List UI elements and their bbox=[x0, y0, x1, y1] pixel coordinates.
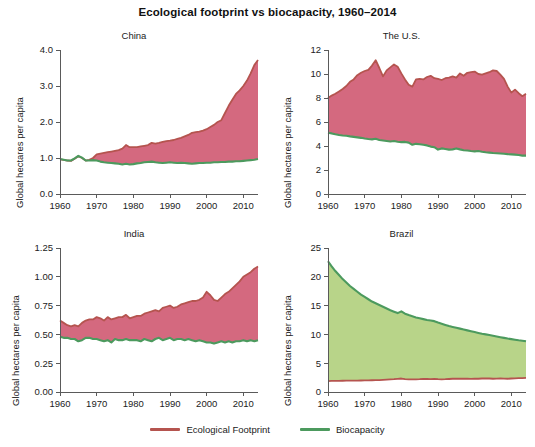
x-tick-label-brazil-3: 1990 bbox=[427, 398, 448, 409]
panel-title-brazil: Brazil bbox=[268, 228, 535, 239]
plot-svg-india: 0.000.250.500.751.001.251960197019801990… bbox=[24, 240, 264, 418]
x-tick-label-china-5: 2010 bbox=[233, 200, 254, 211]
panel-title-india: India bbox=[0, 228, 268, 239]
chart-title: Ecological footprint vs biocapacity, 196… bbox=[0, 6, 535, 18]
x-tick-label-india-3: 1990 bbox=[159, 398, 180, 409]
figure-root: Ecological footprint vs biocapacity, 196… bbox=[0, 0, 535, 447]
plot-area-india: 0.000.250.500.751.001.251960197019801990… bbox=[24, 240, 264, 418]
y-tick-label-china-2: 2.0 bbox=[40, 116, 53, 127]
x-tick-label-china-0: 1960 bbox=[49, 200, 70, 211]
legend-label-biocapacity: Biocapacity bbox=[336, 424, 385, 435]
x-tick-label-india-4: 2000 bbox=[196, 398, 217, 409]
y-tick-label-china-3: 3.0 bbox=[40, 80, 53, 91]
x-tick-label-india-1: 1970 bbox=[86, 398, 107, 409]
y-tick-label-brazil-4: 20 bbox=[310, 271, 321, 282]
plot-svg-china: 0.01.02.03.04.0196019701980199020002010 bbox=[24, 42, 264, 220]
panel-title-china: China bbox=[0, 30, 268, 41]
legend-item-biocapacity: Biocapacity bbox=[300, 424, 385, 435]
y-axis-label-india: Global hectares per capita bbox=[10, 295, 21, 406]
y-tick-label-brazil-5: 25 bbox=[310, 242, 321, 253]
y-tick-label-china-4: 4.0 bbox=[40, 44, 53, 55]
legend-label-ecological-footprint: Ecological Footprint bbox=[186, 424, 269, 435]
legend-swatch-ecological-footprint bbox=[150, 428, 180, 431]
x-tick-label-us-3: 1990 bbox=[427, 200, 448, 211]
plot-area-china: 0.01.02.03.04.0196019701980199020002010 bbox=[24, 42, 264, 220]
y-tick-label-brazil-0: 0 bbox=[316, 386, 321, 397]
y-tick-label-india-3: 0.75 bbox=[35, 300, 54, 311]
x-tick-label-india-5: 2010 bbox=[233, 398, 254, 409]
x-tick-label-us-2: 1980 bbox=[391, 200, 412, 211]
panel-title-us: The U.S. bbox=[268, 30, 535, 41]
x-tick-label-brazil-0: 1960 bbox=[317, 398, 338, 409]
area-fill-brazil bbox=[328, 261, 526, 381]
x-tick-label-us-4: 2000 bbox=[464, 200, 485, 211]
plot-area-us: 024681012196019701980199020002010 bbox=[292, 42, 532, 220]
plot-svg-brazil: 0510152025196019701980199020002010 bbox=[292, 240, 532, 418]
x-tick-label-china-1: 1970 bbox=[86, 200, 107, 211]
x-tick-label-india-0: 1960 bbox=[49, 398, 70, 409]
y-tick-label-brazil-1: 5 bbox=[316, 358, 321, 369]
legend-item-ecological-footprint: Ecological Footprint bbox=[150, 424, 269, 435]
x-tick-label-us-0: 1960 bbox=[317, 200, 338, 211]
panel-brazil: Brazil Global hectares per capita 051015… bbox=[268, 228, 535, 418]
x-tick-label-china-4: 2000 bbox=[196, 200, 217, 211]
y-tick-label-us-0: 0 bbox=[316, 188, 321, 199]
x-tick-label-brazil-4: 2000 bbox=[464, 398, 485, 409]
y-tick-label-india-4: 1.00 bbox=[35, 271, 54, 282]
y-tick-label-us-1: 2 bbox=[316, 164, 321, 175]
x-tick-label-india-2: 1980 bbox=[123, 398, 144, 409]
y-tick-label-brazil-2: 10 bbox=[310, 329, 321, 340]
y-tick-label-us-5: 10 bbox=[310, 68, 321, 79]
x-tick-label-brazil-1: 1970 bbox=[354, 398, 375, 409]
x-tick-label-brazil-2: 1980 bbox=[391, 398, 412, 409]
y-tick-label-china-1: 1.0 bbox=[40, 152, 53, 163]
x-tick-label-us-1: 1970 bbox=[354, 200, 375, 211]
area-fill-china bbox=[60, 60, 258, 164]
y-tick-label-us-2: 4 bbox=[316, 140, 321, 151]
plot-area-brazil: 0510152025196019701980199020002010 bbox=[292, 240, 532, 418]
legend-swatch-biocapacity bbox=[300, 428, 330, 431]
x-tick-label-brazil-5: 2010 bbox=[501, 398, 522, 409]
y-tick-label-us-3: 6 bbox=[316, 116, 321, 127]
x-tick-label-china-3: 1990 bbox=[159, 200, 180, 211]
panel-india: India Global hectares per capita 0.000.2… bbox=[0, 228, 268, 418]
y-tick-label-india-0: 0.00 bbox=[35, 386, 54, 397]
x-tick-label-us-5: 2010 bbox=[501, 200, 522, 211]
y-tick-label-us-6: 12 bbox=[310, 44, 321, 55]
panel-china: China Global hectares per capita 0.01.02… bbox=[0, 30, 268, 220]
y-tick-label-india-1: 0.25 bbox=[35, 358, 54, 369]
area-fill-india bbox=[60, 266, 258, 343]
plot-svg-us: 024681012196019701980199020002010 bbox=[292, 42, 532, 220]
y-tick-label-us-4: 8 bbox=[316, 92, 321, 103]
chart-legend: Ecological Footprint Biocapacity bbox=[0, 424, 535, 435]
x-tick-label-china-2: 1980 bbox=[123, 200, 144, 211]
y-tick-label-india-2: 0.50 bbox=[35, 329, 54, 340]
panel-us: The U.S. Global hectares per capita 0246… bbox=[268, 30, 535, 220]
y-tick-label-brazil-3: 15 bbox=[310, 300, 321, 311]
y-tick-label-india-5: 1.25 bbox=[35, 242, 54, 253]
y-tick-label-china-0: 0.0 bbox=[40, 188, 53, 199]
